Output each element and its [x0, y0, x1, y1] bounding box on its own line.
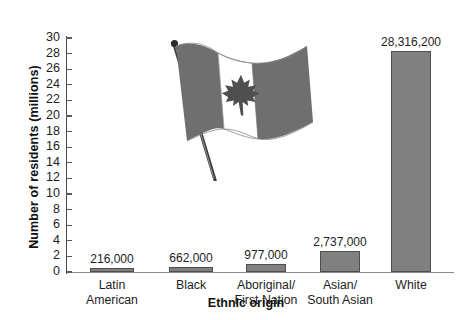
category-label-line: White: [395, 278, 426, 293]
category-label-line: Asian/: [307, 278, 373, 293]
x-axis-line: [66, 272, 454, 273]
y-tick-label: 10: [30, 187, 60, 199]
y-tick: [66, 225, 72, 226]
bar: [246, 264, 286, 272]
y-axis-line: [66, 36, 67, 274]
bar-value-label: 216,000: [90, 252, 133, 266]
bar-value-label: 28,316,200: [381, 35, 441, 49]
y-tick: [66, 131, 72, 132]
y-tick: [66, 69, 72, 70]
x-axis-title: Ethnic origin: [0, 296, 464, 310]
maple-leaf-icon: [222, 75, 260, 116]
y-tick-label: 12: [30, 171, 60, 183]
y-tick-label: 22: [30, 93, 60, 105]
y-tick: [66, 100, 72, 101]
canadian-flag-illustration: [158, 36, 318, 181]
category-label-line: Aboriginal/: [235, 278, 298, 293]
y-tick: [66, 209, 72, 210]
y-tick: [66, 84, 72, 85]
y-tick-label: 18: [30, 125, 60, 137]
bar: [90, 268, 134, 273]
y-tick: [66, 271, 72, 272]
y-tick: [66, 147, 72, 148]
flag-pole-icon: [171, 40, 215, 180]
bar: [169, 267, 213, 272]
y-tick: [66, 162, 72, 163]
y-tick-label: 4: [30, 234, 60, 246]
y-tick-label: 8: [30, 203, 60, 215]
category-label-line: Black: [176, 278, 206, 293]
y-tick-label: 0: [30, 265, 60, 277]
y-tick-label: 20: [30, 109, 60, 121]
y-tick: [66, 37, 72, 38]
y-tick: [66, 178, 72, 179]
y-tick-label: 24: [30, 78, 60, 90]
bar-value-label: 977,000: [244, 248, 287, 262]
bar: [391, 51, 431, 272]
x-axis-title-text: Ethnic origin: [208, 296, 284, 310]
bar-value-label: 2,737,000: [313, 235, 366, 249]
y-tick: [66, 53, 72, 54]
x-category-label: White: [395, 278, 426, 293]
bar-chart: Number of residents (millions) 024681012…: [0, 0, 464, 320]
y-tick-label: 2: [30, 249, 60, 261]
y-tick: [66, 256, 72, 257]
y-tick-label: 16: [30, 140, 60, 152]
y-tick: [66, 240, 72, 241]
y-tick-label: 30: [30, 31, 60, 43]
y-tick: [66, 115, 72, 116]
category-label-line: Latin: [86, 278, 138, 293]
bar-value-label: 662,000: [169, 251, 212, 265]
y-tick-label: 6: [30, 218, 60, 230]
y-tick-label: 14: [30, 156, 60, 168]
y-tick-label: 26: [30, 62, 60, 74]
bar: [320, 251, 360, 272]
y-tick-label: 28: [30, 47, 60, 59]
y-tick: [66, 193, 72, 194]
x-category-label: Black: [176, 278, 206, 293]
